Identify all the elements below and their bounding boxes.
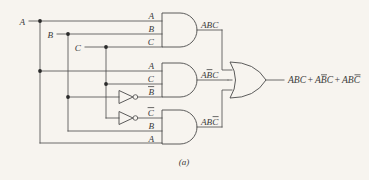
and1-output-label: ABC [200, 20, 219, 30]
and-gate-2 [162, 63, 228, 97]
final-term-3: ABC [341, 74, 361, 85]
logic-circuit-svg: A B C A C B C B A A B C ABC ABC ABC ABC … [0, 0, 369, 180]
or-gate [230, 62, 284, 98]
figure-caption: (a) [179, 157, 190, 167]
and2-input-label-a: A [147, 61, 154, 71]
junction-dot [66, 95, 70, 99]
final-term-2: ABC [314, 74, 334, 85]
and3-input-label-b: B [148, 121, 154, 131]
and-gate-3 [162, 110, 222, 144]
input-label-b: B [47, 30, 53, 40]
input-label-a: A [18, 17, 25, 27]
and2-input-label-c: C [148, 74, 155, 84]
and3-input-label-c-not: C [148, 108, 155, 118]
final-output-expression: ABC + ABC + ABC [287, 74, 361, 85]
and1-input-label-a: A [147, 11, 154, 21]
junction-dot [104, 45, 108, 49]
final-operator-1: + [307, 74, 313, 85]
and1-input-label-c: C [148, 37, 155, 47]
input-label-c: C [75, 43, 82, 53]
figure-canvas: A B C A C B C B A A B C ABC ABC ABC ABC … [0, 0, 369, 180]
junction-dot [66, 32, 70, 36]
junction-dot [38, 69, 42, 73]
and3-input-label-a: A [147, 134, 154, 144]
and2-output-label: ABC [200, 70, 219, 80]
or-input-wires [222, 30, 232, 127]
final-operator-2: + [334, 74, 340, 85]
input-bus-b [57, 34, 162, 131]
junction-dot [104, 82, 108, 86]
and-gate-1 [162, 13, 222, 47]
inverter-b [119, 91, 162, 104]
final-term-1: ABC [287, 74, 307, 85]
and2-input-label-b-not: B [148, 87, 154, 97]
inverter-c [119, 112, 162, 125]
and3-output-label: ABC [200, 117, 219, 127]
junction-dot [38, 19, 42, 23]
and1-input-label-b: B [148, 24, 154, 34]
